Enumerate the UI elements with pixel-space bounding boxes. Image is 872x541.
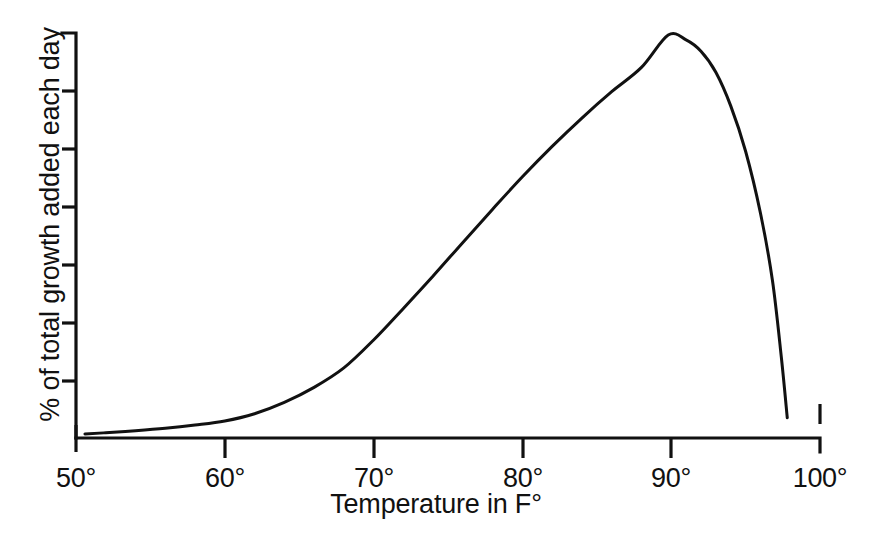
- growth-vs-temperature-chart: 50° 60° 70° 80° 90° 100° Temperature in …: [0, 0, 872, 541]
- x-axis-title: Temperature in F°: [0, 489, 872, 520]
- x-axis-ticks: [76, 404, 820, 458]
- chart-plot-area: [0, 0, 872, 541]
- x-axis-line: [76, 438, 820, 452]
- y-axis-title: % of total growth added each day: [35, 5, 66, 445]
- growth-curve: [85, 33, 787, 433]
